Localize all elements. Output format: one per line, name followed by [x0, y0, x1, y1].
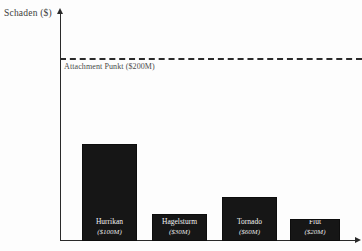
bar-label-name: Hagelsturm: [162, 217, 197, 227]
bar-label-value: ($100M): [97, 228, 122, 237]
bar-hurrikan: Hurrikan($100M): [82, 144, 137, 241]
bar-label-value: ($20M): [305, 228, 326, 237]
bar-label-value: ($30M): [169, 228, 190, 237]
bar-label-value: ($60M): [239, 228, 260, 237]
bar-flut: Flut($20M): [290, 219, 340, 241]
bar-tornado: Tornado($60M): [222, 197, 277, 241]
bar-label-name: Hurrikan: [96, 217, 123, 227]
bar-label-name: Tornado: [237, 217, 262, 227]
y-axis-label: Schaden ($): [4, 8, 52, 18]
chart-figure: Schaden ($) Attachment Punkt ($200M) Hur…: [0, 0, 362, 251]
bar-hagelsturm: Hagelsturm($30M): [152, 214, 207, 241]
plot-area: Hurrikan($100M)Hagelsturm($30M)Tornado($…: [60, 12, 362, 241]
bar-label-name: Flut: [309, 219, 321, 228]
